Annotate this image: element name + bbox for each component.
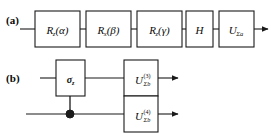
gate-label-u-sigma-a: UΣa bbox=[229, 21, 244, 38]
gate-label-rz-gamma: Rz(γ) bbox=[149, 21, 170, 38]
gate-base-hadamard: H bbox=[196, 24, 204, 36]
gate-sup-u-sigma-b-3: (3) bbox=[143, 73, 150, 79]
panel-label-b: (b) bbox=[6, 72, 20, 84]
gate-label-u-sigma-b-3: U(3)Σb bbox=[135, 71, 143, 87]
gate-sub-u-sigma-a: Σa bbox=[236, 30, 243, 37]
gate-label-rx-beta: Rx(β) bbox=[97, 21, 119, 38]
panel-b-group bbox=[26, 60, 178, 132]
gate-sub-u-sigma-b-4: Σb bbox=[143, 117, 150, 123]
panel-label-a: (a) bbox=[6, 14, 19, 26]
gate-sub-u-sigma-b-3: Σb bbox=[143, 81, 150, 87]
gate-arg-rz-gamma: (γ) bbox=[158, 24, 170, 36]
gate-arg-rz-alpha: (α) bbox=[55, 24, 68, 36]
gate-sub-sigma-z: z bbox=[72, 80, 74, 86]
quantum-circuit-figure: (a) (b) Rz(α) Rx(β) Rz(γ) H UΣa σz U(3)Σ… bbox=[0, 0, 276, 137]
gate-base-u-sigma-b-3: U bbox=[135, 74, 143, 86]
gate-label-u-sigma-b-4: U(4)Σb bbox=[135, 107, 143, 123]
gate-base-u-sigma-a: U bbox=[229, 24, 237, 36]
control-dot bbox=[66, 110, 74, 118]
gate-sup-u-sigma-b-4: (4) bbox=[143, 109, 150, 115]
gate-base-u-sigma-b-4: U bbox=[135, 110, 143, 122]
gate-label-hadamard: H bbox=[196, 21, 204, 37]
gate-arg-rx-beta: (β) bbox=[107, 24, 120, 36]
gate-label-sigma-z: σz bbox=[67, 69, 75, 87]
gate-label-rz-alpha: Rz(α) bbox=[47, 21, 69, 38]
